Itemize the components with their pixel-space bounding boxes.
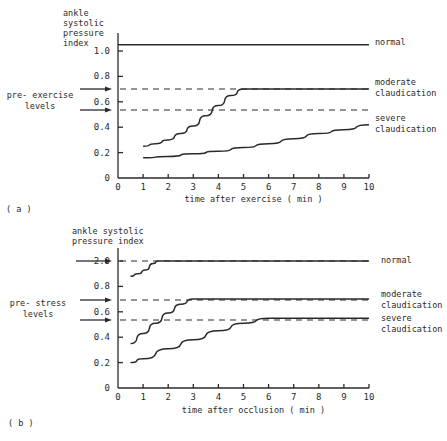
- panel-a-y-axis-title: ankle: [63, 8, 89, 18]
- panel-b-y-axis-title: ankle systolic: [72, 226, 144, 236]
- panel-a-series-label: claudication: [375, 124, 436, 134]
- panel-a-series-severe-claudication: [143, 125, 369, 158]
- panel-a-y-tick-label: 0.6: [94, 97, 110, 107]
- panel-a-reference-arrow-head-icon: [105, 87, 112, 92]
- panel-a-y-axis-title: index: [63, 38, 89, 48]
- panel-b-x-tick-label: 9: [341, 392, 346, 402]
- panel-b-x-tick-label: 1: [140, 392, 145, 402]
- panel-a-x-tick-label: 5: [241, 182, 246, 192]
- panel-b-x-tick-label: 4: [216, 392, 221, 402]
- panel-a-series-label: moderate: [375, 77, 416, 87]
- panel-a-x-axis-title: time after exercise ( min ): [184, 194, 322, 204]
- panel-b-y-tick-label: 0.6: [94, 307, 110, 317]
- panel-a-x-tick-label: 0: [115, 182, 120, 192]
- panel-b-series-label: claudication: [381, 300, 442, 310]
- panel-b-reference-arrow-head-icon: [105, 318, 112, 323]
- panel-a-y-tick-label: 0.2: [94, 148, 110, 158]
- panel-a-x-tick-label: 2: [165, 182, 170, 192]
- panel-b-x-tick-label: 0: [115, 392, 120, 402]
- panel-b-x-tick-label: 10: [364, 392, 375, 402]
- panel-a-series-label: claudication: [375, 88, 436, 98]
- panel-a-x-tick-label: 3: [191, 182, 196, 192]
- panel-a-y-axis-title: pressure: [63, 28, 104, 38]
- panel-b-y-tick-label: 0.8: [94, 281, 110, 291]
- panel-a-x-tick-label: 1: [140, 182, 145, 192]
- panel-b-y-tick-label: 0.2: [94, 358, 110, 368]
- panel-a-y-tick-label: 0: [105, 173, 110, 183]
- panel-a-reference-label: pre- exercise: [7, 90, 74, 100]
- panel-a-x-tick-label: 9: [341, 182, 346, 192]
- panel-b-series-label: severe: [381, 313, 412, 323]
- panel-a-x-tick-label: 7: [291, 182, 296, 192]
- panel-a-x-tick-label: 10: [364, 182, 375, 192]
- panel-b-x-tick-label: 2: [165, 392, 170, 402]
- panel-b-y-axis-title: pressure index: [72, 236, 144, 246]
- panel-b-x-tick-label: 5: [241, 392, 246, 402]
- two-panel-line-chart: 00.20.40.60.81.0012345678910time after e…: [0, 0, 447, 441]
- panel-a-y-tick-label: 0.8: [94, 71, 110, 81]
- panel-b-x-tick-label: 6: [266, 392, 271, 402]
- panel-b-series-label: moderate: [381, 289, 422, 299]
- panel-b-reference-arrow-head-icon: [105, 298, 112, 303]
- panel-b-series-moderate-claudication: [131, 299, 369, 343]
- panel-b-reference-label: pre- stress: [10, 298, 66, 308]
- panel-b-x-axis-title: time after occlusion ( min ): [182, 405, 325, 415]
- panel-b-series-label: normal: [381, 255, 412, 265]
- panel-b-label: ( b ): [8, 418, 34, 428]
- figure: 00.20.40.60.81.0012345678910time after e…: [0, 0, 447, 441]
- panel-b-x-tick-label: 8: [316, 392, 321, 402]
- panel-a-y-tick-label: 0.4: [94, 122, 110, 132]
- panel-a-x-tick-label: 8: [316, 182, 321, 192]
- panel-b-series-label: claudication: [381, 324, 442, 334]
- panel-b-series-severe-claudication: [131, 318, 369, 362]
- panel-b-x-tick-label: 7: [291, 392, 296, 402]
- panel-a-series-moderate-claudication: [143, 89, 369, 146]
- panel-a-reference-label: levels: [25, 101, 56, 111]
- panel-a-x-tick-label: 6: [266, 182, 271, 192]
- panel-b-x-tick-label: 3: [191, 392, 196, 402]
- panel-a-series-label: severe: [375, 113, 406, 123]
- panel-a-series-label: normal: [375, 37, 406, 47]
- panel-b-y-tick-label: 0: [105, 383, 110, 393]
- panel-a-x-tick-label: 4: [216, 182, 221, 192]
- panel-a-y-axis-title: systolic: [63, 18, 104, 28]
- panel-b-reference-label: levels: [23, 309, 54, 319]
- panel-a-y-tick-label: 1.0: [94, 46, 110, 56]
- panel-a-label: ( a ): [6, 204, 32, 214]
- panel-a-reference-arrow-head-icon: [105, 108, 112, 113]
- panel-b-series-normal: [131, 261, 369, 276]
- panel-b-y-tick-label: 0.4: [94, 332, 110, 342]
